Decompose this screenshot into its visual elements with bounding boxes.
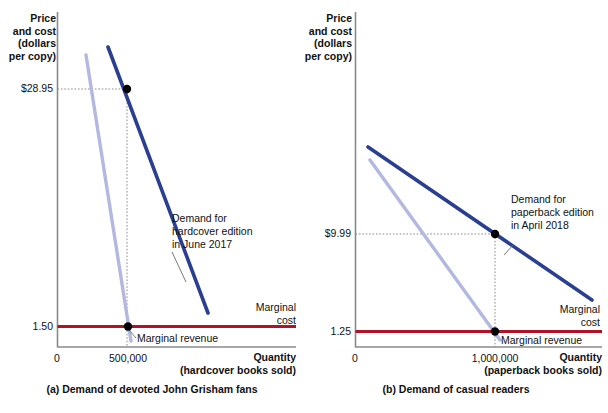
demand-label-leader-a <box>172 252 186 282</box>
price-tick-label-b: $9.99 <box>291 227 351 239</box>
x-axis-title-a: Quantity (hardcover books sold) <box>136 351 296 376</box>
marginal-cost-tick-label-a: 1.50 <box>0 320 53 332</box>
panel-demand-casual-readers: Price and cost (dollars per copy) $9.99 … <box>304 0 608 413</box>
demand-label-leader-b <box>504 244 514 255</box>
panel-caption-a: (a) Demand of devoted John Grisham fans <box>0 383 304 395</box>
marginal-cost-label-a: Marginal cost <box>216 301 296 327</box>
equilibrium-point-demand-a <box>123 85 131 93</box>
x-axis-title-b: Quantity (paperback books sold) <box>444 351 602 376</box>
marginal-cost-tick-label-b: 1.25 <box>291 325 351 337</box>
y-axis-title-a: Price and cost (dollars per copy) <box>0 12 56 62</box>
demand-curve-label-a: Demand for hardcover edition in June 201… <box>172 212 292 251</box>
intersection-point-mr-mc-b <box>491 327 499 335</box>
marginal-revenue-curve-b <box>370 160 500 340</box>
panel-caption-b: (b) Demand of casual readers <box>304 383 608 395</box>
demand-curve-a <box>108 47 208 313</box>
origin-label-b: 0 <box>341 352 369 364</box>
marginal-revenue-label-a: Marginal revenue <box>137 332 218 344</box>
origin-label-a: 0 <box>43 352 71 364</box>
price-tick-label-a: $28.95 <box>0 82 53 94</box>
y-axis-title-b: Price and cost (dollars per copy) <box>272 12 352 62</box>
panel-demand-devoted-fans: Price and cost (dollars per copy) $28.95… <box>0 0 304 413</box>
marginal-revenue-curve-a <box>86 55 131 341</box>
demand-curve-label-b: Demand for paperback edition in April 20… <box>511 193 608 232</box>
equilibrium-point-demand-b <box>491 230 499 238</box>
marginal-revenue-label-b: Marginal revenue <box>501 334 582 346</box>
marginal-cost-label-b: Marginal cost <box>522 303 600 329</box>
intersection-point-mr-mc-a <box>124 322 132 330</box>
